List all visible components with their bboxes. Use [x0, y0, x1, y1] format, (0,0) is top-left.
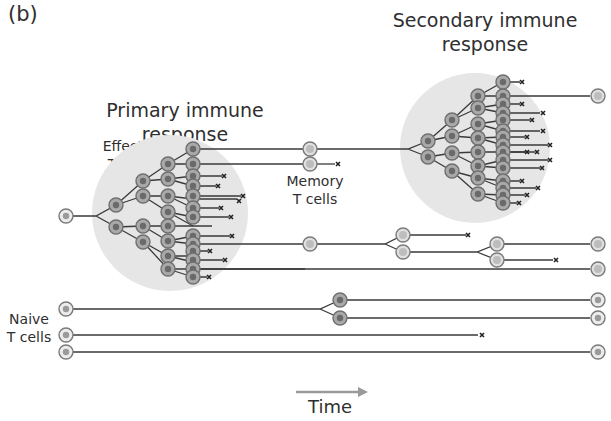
memory-death-marker	[336, 162, 340, 166]
diagram-canvas	[0, 0, 611, 421]
primary-naive-cell	[59, 209, 73, 223]
memory-death-marker	[554, 258, 558, 262]
memory-death-marker	[466, 233, 470, 237]
naive-death-marker	[480, 333, 484, 337]
time-arrow-icon	[296, 387, 368, 397]
